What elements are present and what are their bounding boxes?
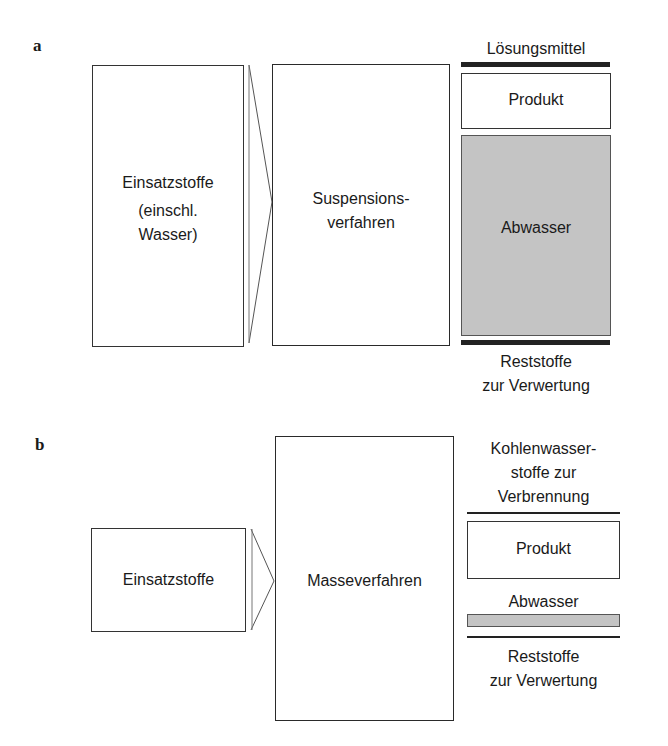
residue-label-b-line2: zur Verwertung	[467, 669, 620, 693]
process-label-b: Masseverfahren	[276, 569, 453, 593]
hydrocarbons-label-b-line1: Kohlenwasser-	[467, 437, 620, 461]
process-box-b: Masseverfahren	[275, 436, 454, 721]
hydrocarbons-label-b-line3: Verbrennung	[467, 485, 620, 509]
product-label-b: Produkt	[468, 537, 619, 561]
residue-line-b	[467, 636, 620, 638]
residue-label-b-line1: Reststoffe	[467, 645, 620, 669]
wastewater-bar-b	[467, 614, 620, 627]
wastewater-label-b: Abwasser	[467, 590, 620, 614]
hydrocarbons-label-b-line2: stoffe zur	[467, 461, 620, 485]
hydrocarbons-line-b	[467, 512, 620, 514]
product-box-b: Produkt	[467, 521, 620, 579]
